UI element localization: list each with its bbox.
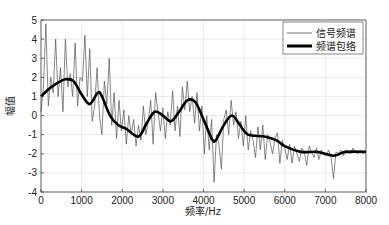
y-tick-label: -4 [28, 187, 37, 198]
y-tick-label: -1 [28, 129, 37, 140]
legend-label-envelope: 频谱包络 [316, 40, 356, 52]
x-tick-label: 0 [38, 195, 44, 206]
x-tick-label: 3000 [152, 195, 175, 206]
y-axis-label: 幅值 [4, 96, 16, 116]
y-tick-label: 5 [31, 15, 37, 26]
legend-label-signal: 信号频谱 [316, 27, 356, 39]
y-tick-label: -3 [28, 167, 37, 178]
y-tick-label: 3 [31, 53, 37, 64]
x-tick-label: 2000 [111, 195, 134, 206]
x-axis-ticks: 010002000300040005000600070008000 [38, 189, 377, 206]
x-axis-label: 频率/Hz [185, 205, 221, 217]
y-tick-label: -2 [28, 148, 37, 159]
y-tick-label: 4 [31, 34, 37, 45]
y-tick-label: 0 [31, 110, 37, 121]
x-tick-label: 6000 [274, 195, 297, 206]
spectrum-chart: 010002000300040005000600070008000 -4-3-2… [0, 0, 389, 225]
x-tick-label: 4000 [192, 195, 215, 206]
legend: 信号频谱 频谱包络 [283, 22, 363, 54]
y-tick-label: 1 [31, 91, 37, 102]
y-tick-label: 2 [31, 72, 37, 83]
x-tick-label: 5000 [233, 195, 256, 206]
x-tick-label: 1000 [71, 195, 94, 206]
x-tick-label: 7000 [314, 195, 337, 206]
x-tick-label: 8000 [355, 195, 378, 206]
